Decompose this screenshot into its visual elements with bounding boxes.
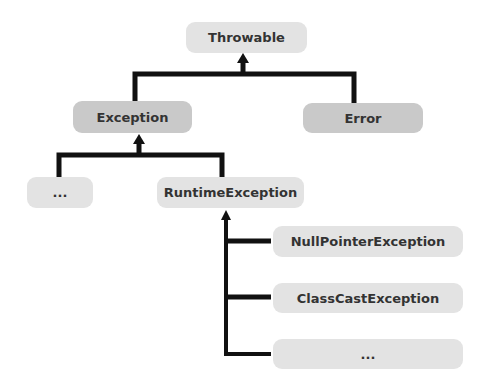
node-label: ... — [53, 185, 68, 200]
node-runtime-exception: RuntimeException — [157, 177, 304, 208]
node-null-pointer-exception: NullPointerException — [273, 226, 463, 257]
node-error: Error — [303, 103, 423, 133]
node-label: Exception — [97, 110, 169, 125]
node-label: RuntimeException — [164, 185, 298, 200]
node-label: Throwable — [208, 30, 285, 45]
node-other-exceptions: ... — [27, 177, 93, 208]
node-exception: Exception — [73, 101, 192, 133]
node-label: Error — [344, 111, 381, 126]
node-label: ... — [361, 347, 376, 362]
node-label: NullPointerException — [291, 234, 446, 249]
node-class-cast-exception: ClassCastException — [273, 283, 463, 313]
node-throwable: Throwable — [186, 22, 307, 53]
node-label: ClassCastException — [297, 291, 439, 306]
node-other-runtime-exceptions: ... — [273, 339, 463, 369]
arrow-up-icon — [133, 134, 145, 144]
arrow-up-icon — [221, 210, 231, 220]
arrow-up-icon — [237, 53, 249, 63]
